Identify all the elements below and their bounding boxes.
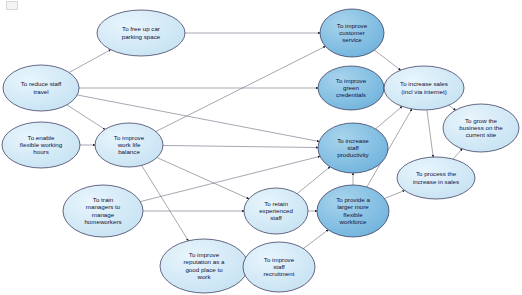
node-reduce_travel[interactable]: To reduce stafftravel — [3, 65, 79, 111]
node-ellipse-worklife[interactable] — [95, 123, 163, 167]
edge-customer-to-sales — [374, 50, 400, 70]
node-parking[interactable]: To free up carparking space — [97, 10, 185, 56]
node-ellipse-flexible_hours[interactable] — [2, 122, 80, 168]
edge-productivity-to-sales — [376, 106, 403, 128]
edge-recruitment-to-workforce — [303, 230, 328, 249]
diagram-canvas: To free up carparking spaceTo improvecus… — [0, 0, 522, 295]
node-ellipse-reduce_travel[interactable] — [3, 65, 79, 111]
edge-worklife-to-reputation — [142, 165, 189, 240]
node-ellipse-workforce[interactable] — [317, 185, 389, 237]
nodes-layer: To free up carparking spaceTo improvecus… — [2, 9, 519, 293]
node-retain[interactable]: To retainexperiencedstaff — [244, 188, 308, 234]
node-productivity[interactable]: To increasestaffproductivity — [318, 123, 388, 173]
node-ellipse-process_sales[interactable] — [397, 157, 475, 199]
node-customer[interactable]: To improvecustomerservice — [320, 9, 384, 57]
edge-reduce_travel-to-worklife — [67, 105, 105, 130]
node-grow[interactable]: To grow thebusiness on thecurrent site — [443, 104, 519, 152]
node-train_managers[interactable]: To trainmanagers tomanagehomeworkers — [63, 185, 143, 237]
edge-reduce_travel-to-parking — [69, 50, 111, 73]
node-reputation[interactable]: To improvereputation as agood place towo… — [160, 239, 248, 293]
node-ellipse-recruitment[interactable] — [243, 242, 315, 292]
node-ellipse-sales[interactable] — [384, 66, 464, 110]
node-ellipse-green[interactable] — [318, 66, 384, 110]
node-recruitment[interactable]: To improvestaffrecruitment — [243, 242, 315, 292]
edge-process_sales-to-grow — [453, 149, 462, 159]
edge-retain-to-productivity — [297, 167, 330, 194]
diagram-svg: To free up carparking spaceTo improvecus… — [0, 0, 522, 295]
node-worklife[interactable]: To improvework lifebalance — [95, 123, 163, 167]
node-ellipse-productivity[interactable] — [318, 123, 388, 173]
node-ellipse-reputation[interactable] — [160, 239, 248, 293]
edge-workforce-to-process_sales — [385, 190, 405, 198]
node-green[interactable]: To improvegreencredentials — [318, 66, 384, 110]
edge-worklife-to-productivity — [163, 145, 318, 147]
node-ellipse-retain[interactable] — [244, 188, 308, 234]
node-process_sales[interactable]: To process theincrease in sales — [397, 157, 475, 199]
node-ellipse-parking[interactable] — [97, 10, 185, 56]
node-sales[interactable]: To increase sales(incl via internet) — [384, 66, 464, 110]
edge-worklife-to-retain — [157, 158, 249, 199]
node-ellipse-grow[interactable] — [443, 104, 519, 152]
node-ellipse-train_managers[interactable] — [63, 185, 143, 237]
edge-sales-to-process_sales — [427, 110, 433, 157]
edge-sales-to-grow — [449, 105, 456, 110]
node-workforce[interactable]: To provide alarger moreflexibleworkforce — [317, 185, 389, 237]
node-flexible_hours[interactable]: To enableflexible workinghours — [2, 122, 80, 168]
edge-worklife-to-customer — [156, 46, 326, 131]
node-ellipse-customer[interactable] — [320, 9, 384, 57]
